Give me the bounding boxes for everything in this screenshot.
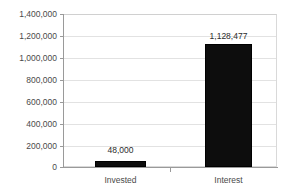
x-tick-mark	[170, 168, 171, 172]
category-label-interest: Interest	[198, 175, 259, 185]
y-axis-label: 1,200,000	[0, 32, 57, 41]
y-tick-mark	[60, 36, 63, 37]
y-tick-mark	[60, 80, 63, 81]
y-tick-mark	[60, 102, 63, 103]
y-axis-label: 1,400,000	[0, 10, 57, 19]
y-tick-mark	[60, 14, 63, 15]
y-tick-mark	[60, 146, 63, 147]
y-tick-mark	[60, 167, 63, 168]
y-axis-label: 0	[0, 163, 57, 172]
y-axis-label: 400,000	[0, 120, 57, 129]
y-axis-label: 800,000	[0, 76, 57, 85]
bar-interest	[205, 44, 252, 167]
bar-invested	[95, 161, 146, 167]
y-tick-mark	[60, 58, 63, 59]
y-axis-label: 200,000	[0, 142, 57, 151]
bar-chart: 1,400,000 1,200,000 1,000,000 800,000 60…	[0, 0, 293, 196]
bar-value-invested: 48,000	[95, 145, 146, 155]
y-axis-label: 1,000,000	[0, 54, 57, 63]
y-tick-mark	[60, 124, 63, 125]
y-axis-label: 600,000	[0, 98, 57, 107]
bar-value-interest: 1,128,477	[193, 31, 264, 41]
y-axis-line	[63, 14, 64, 168]
category-label-invested: Invested	[90, 175, 151, 185]
